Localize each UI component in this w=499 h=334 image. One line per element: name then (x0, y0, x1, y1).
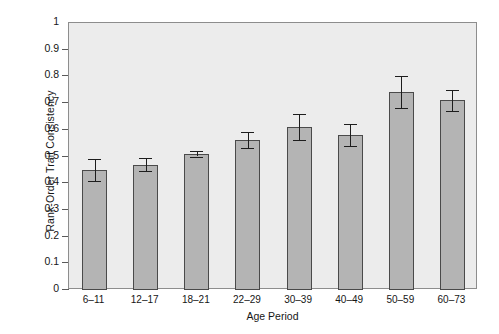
bar (235, 140, 260, 290)
error-bar-stem (146, 158, 147, 171)
y-axis-tick-label: 0.3 (44, 202, 59, 214)
y-axis-tick-label: 0.9 (44, 42, 59, 54)
error-bar-stem (95, 159, 96, 180)
error-bar-stem (452, 90, 453, 111)
y-axis-tick-label: 0.7 (44, 95, 59, 107)
error-bar-cap-upper (446, 90, 459, 91)
error-bar-stem (248, 132, 249, 148)
error-bar-cap-upper (88, 159, 101, 160)
error-bar-cap-lower (139, 171, 152, 172)
error-bar-stem (401, 76, 402, 108)
error-bar-cap-upper (293, 114, 306, 115)
error-bar-cap-lower (344, 146, 357, 147)
error-bar-cap-upper (139, 158, 152, 159)
error-bar-cap-lower (395, 108, 408, 109)
y-axis-tick-label: 1 (53, 15, 59, 27)
y-axis-tick-label: 0.1 (44, 255, 59, 267)
error-bar-cap-upper (344, 124, 357, 125)
bar (184, 154, 209, 290)
x-axis-tick-label: 60–73 (421, 294, 481, 305)
y-axis-tick-label: 0 (53, 282, 59, 294)
error-bar-cap-lower (446, 111, 459, 112)
y-axis-tick-label: 0.5 (44, 149, 59, 161)
y-axis-tick-label: 0.2 (44, 229, 59, 241)
bar (338, 135, 363, 290)
error-bar-cap-lower (293, 140, 306, 141)
error-bar-cap-lower (190, 157, 203, 158)
bar (82, 170, 107, 290)
bar (287, 127, 312, 290)
error-bar-cap-upper (241, 132, 254, 133)
error-bar-stem (350, 124, 351, 145)
y-axis-tick-label: 0.4 (44, 175, 59, 187)
bar-chart-figure: Rank-Order Trait Consistency 00.10.20.30… (0, 0, 499, 334)
error-bar-cap-upper (395, 76, 408, 77)
error-bar-stem (299, 114, 300, 141)
x-axis-title: Age Period (68, 310, 477, 322)
plot-area (68, 22, 477, 289)
y-axis-tick-label: 0.8 (44, 68, 59, 80)
y-axis-tick (62, 289, 69, 290)
error-bar-cap-lower (88, 181, 101, 182)
bar (440, 100, 465, 290)
error-bar-cap-lower (241, 148, 254, 149)
y-axis-tick-label: 0.6 (44, 122, 59, 134)
bar (389, 92, 414, 290)
bar (133, 165, 158, 290)
error-bar-cap-upper (190, 151, 203, 152)
